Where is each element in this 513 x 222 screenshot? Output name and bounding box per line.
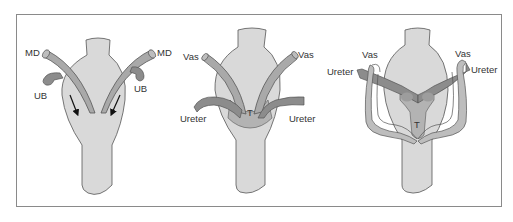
ureteric-bud-right — [130, 67, 144, 81]
panel-1: MD MD UB UB — [25, 38, 172, 194]
panel-3: Vas Vas Ureter Ureter T — [327, 28, 497, 193]
label-ureter-right: Ureter — [471, 64, 497, 75]
label-md-right: MD — [157, 47, 172, 58]
label-ureter-left: Ureter — [180, 113, 206, 124]
label-trigone: T — [414, 119, 420, 130]
label-vas-right: Vas — [298, 49, 314, 60]
label-vas-left: Vas — [362, 49, 378, 60]
label-vas-right: Vas — [455, 48, 471, 59]
ureteric-bud-left — [43, 73, 63, 85]
label-md-left: MD — [25, 47, 40, 58]
embryology-diagram: MD MD UB UB Vas Vas Ureter Ureter T — [0, 0, 513, 222]
panel-2: Vas Vas Ureter Ureter T — [180, 28, 315, 193]
label-ub-right: UB — [134, 83, 147, 94]
label-ureter-right: Ureter — [289, 113, 315, 124]
urogenital-sinus-shape — [62, 38, 126, 194]
label-vas-left: Vas — [183, 51, 199, 62]
label-ureter-left: Ureter — [327, 66, 353, 77]
label-trigone: T — [247, 107, 253, 118]
label-ub-left: UB — [34, 90, 47, 101]
